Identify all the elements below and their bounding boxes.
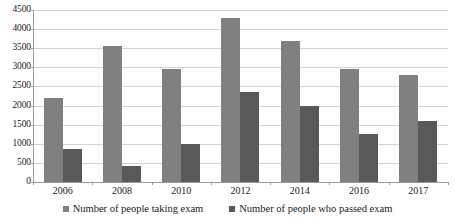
- bar-2017-taking: [399, 75, 418, 182]
- bars-layer: [33, 10, 448, 182]
- x-tick-label-2006: 2006: [33, 185, 92, 197]
- legend-item-taking[interactable]: Number of people taking exam: [63, 203, 204, 215]
- x-tick-mark-6: [389, 182, 390, 185]
- y-tick-label-0: 0: [1, 177, 31, 187]
- legend-swatch-icon-passed: [229, 206, 235, 212]
- chart-legend: Number of people taking examNumber of pe…: [0, 200, 455, 218]
- x-axis-labels: 2006200820102012201420162017: [33, 185, 448, 200]
- cropped-caption-artifact: [0, 0, 455, 3]
- bar-2008-passed: [122, 166, 141, 182]
- y-tick-label-4000: 4000: [1, 24, 31, 34]
- x-tick-mark-5: [329, 182, 330, 185]
- y-tick-label-3500: 3500: [1, 43, 31, 53]
- bar-group-2006: [33, 10, 92, 182]
- bar-chart: 050010001500200025003000350040004500 200…: [0, 0, 455, 218]
- bar-2016-passed: [359, 134, 378, 182]
- legend-item-passed[interactable]: Number of people who passed exam: [229, 203, 392, 215]
- bar-2016-taking: [340, 69, 359, 182]
- x-tick-label-2017: 2017: [389, 185, 448, 197]
- x-tick-mark-2: [152, 182, 153, 185]
- x-tick-label-2008: 2008: [92, 185, 151, 197]
- bar-group-2010: [152, 10, 211, 182]
- y-tick-label-3000: 3000: [1, 62, 31, 72]
- y-tick-label-500: 500: [1, 158, 31, 168]
- x-tick-mark-end: [448, 182, 449, 185]
- x-tick-mark-3: [211, 182, 212, 185]
- x-tick-label-2016: 2016: [329, 185, 388, 197]
- bar-group-2016: [329, 10, 388, 182]
- y-tick-label-2000: 2000: [1, 101, 31, 111]
- bar-group-2014: [270, 10, 329, 182]
- bar-2012-taking: [221, 18, 240, 182]
- legend-label: Number of people who passed exam: [239, 203, 392, 215]
- x-tick-label-2014: 2014: [270, 185, 329, 197]
- y-tick-label-1500: 1500: [1, 120, 31, 130]
- x-tick-mark-1: [92, 182, 93, 185]
- bar-2008-taking: [103, 46, 122, 182]
- bar-2012-passed: [240, 92, 259, 182]
- y-tick-label-4500: 4500: [1, 5, 31, 15]
- y-axis-line: [33, 10, 34, 182]
- bar-2006-passed: [63, 149, 82, 182]
- bar-2006-taking: [44, 98, 63, 182]
- y-tick-label-2500: 2500: [1, 81, 31, 91]
- x-tick-mark-4: [270, 182, 271, 185]
- bar-2010-taking: [162, 69, 181, 182]
- x-tick-label-2010: 2010: [152, 185, 211, 197]
- y-tick-label-1000: 1000: [1, 139, 31, 149]
- legend-label: Number of people taking exam: [73, 203, 204, 215]
- bar-group-2008: [92, 10, 151, 182]
- gridline-0: [33, 182, 448, 183]
- bar-group-2012: [211, 10, 270, 182]
- bar-2014-taking: [281, 41, 300, 182]
- legend-swatch-icon-taking: [63, 206, 69, 212]
- bar-2017-passed: [418, 121, 437, 182]
- bar-2014-passed: [300, 106, 319, 182]
- bar-2010-passed: [181, 144, 200, 182]
- y-axis: 050010001500200025003000350040004500: [0, 10, 31, 182]
- x-tick-mark-0: [33, 182, 34, 185]
- plot-area: [33, 10, 448, 182]
- bar-group-2017: [389, 10, 448, 182]
- x-tick-label-2012: 2012: [211, 185, 270, 197]
